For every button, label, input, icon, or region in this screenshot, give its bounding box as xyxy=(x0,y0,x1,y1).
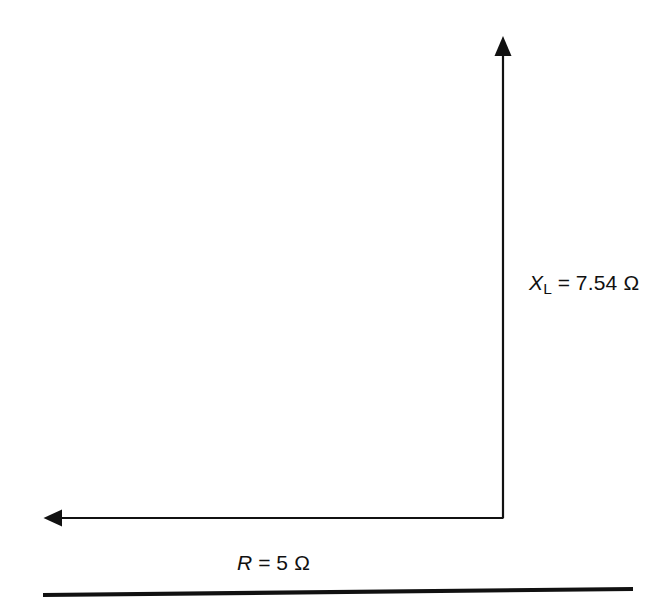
resistance-equals: = xyxy=(252,551,276,574)
resistance-label: R = 5 Ω xyxy=(237,552,310,573)
resistance-symbol: R xyxy=(237,551,252,574)
reactance-label: XL = 7.54 Ω xyxy=(529,272,639,297)
reactance-unit: Ω xyxy=(624,271,640,294)
reactance-vector-arrowhead xyxy=(495,36,512,56)
reactance-equals: = xyxy=(552,271,576,294)
resistance-value: 5 xyxy=(276,551,288,574)
resistance-unit: Ω xyxy=(294,551,310,574)
page-divider-rule xyxy=(43,589,633,595)
reactance-subscript: L xyxy=(543,280,552,297)
diagram-page: XL = 7.54 Ω R = 5 Ω xyxy=(0,0,654,606)
reactance-symbol: X xyxy=(529,271,543,294)
reactance-value: 7.54 xyxy=(576,271,618,294)
reactance-vector-xl xyxy=(495,36,512,518)
resistance-vector-r xyxy=(44,510,504,527)
phasor-diagram-canvas xyxy=(0,0,654,606)
resistance-vector-arrowhead xyxy=(44,510,63,527)
